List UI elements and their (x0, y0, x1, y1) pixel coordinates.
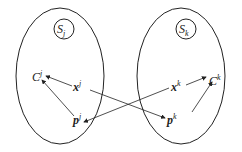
set-j-label: Sj (57, 22, 66, 38)
edge-pj-cj (42, 80, 74, 116)
node-p-j: pj (72, 112, 82, 127)
node-c-j: Cj (32, 69, 43, 84)
node-x-j: xj (72, 79, 82, 94)
diagram-canvas: Sj Cj xj pj Sk Ck xk pk (0, 0, 242, 152)
edge-xk-pj (84, 88, 169, 122)
node-c-k: Ck (209, 73, 221, 88)
set-k-label: Sk (179, 22, 189, 38)
node-p-k: pk (166, 112, 177, 127)
edge-xk-ck (186, 77, 206, 85)
edge-pk-ck (192, 82, 212, 112)
node-x-k: xk (170, 79, 181, 94)
edge-xj-cj (46, 76, 72, 86)
